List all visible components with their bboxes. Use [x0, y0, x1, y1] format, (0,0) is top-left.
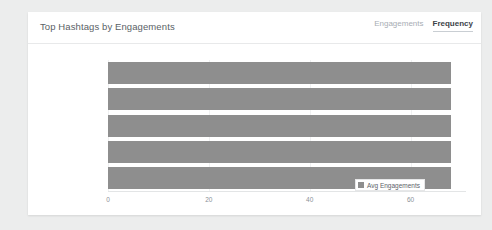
bar-row[interactable]: #eatgreen — [108, 62, 466, 84]
x-axis-tick-label: 0 — [106, 196, 110, 203]
tab-bar: Engagements Frequency — [374, 19, 473, 32]
screenshot-root: Top Hashtags by Engagements Engagements … — [0, 0, 492, 230]
bar-row[interactable]: #eathealthy — [108, 115, 466, 137]
x-axis-tick-label: 40 — [306, 196, 313, 203]
page-title: Top Hashtags by Engagements — [40, 21, 175, 32]
bar[interactable] — [108, 115, 451, 137]
plot-area: #eatgreen#eatclean#eathealthy#drinkkombu… — [108, 60, 466, 191]
tab-engagements[interactable]: Engagements — [374, 19, 423, 32]
tab-frequency[interactable]: Frequency — [433, 19, 473, 32]
bar-chart: #eatgreen#eatclean#eathealthy#drinkkombu… — [28, 44, 481, 215]
bar-row[interactable]: #drinkkombucha — [108, 141, 466, 163]
chart-card: Top Hashtags by Engagements Engagements … — [28, 12, 481, 215]
x-axis-tick-label: 60 — [407, 196, 414, 203]
x-axis-tick-label: 20 — [205, 196, 212, 203]
legend-label: Avg Engagements — [367, 182, 420, 189]
bar[interactable] — [108, 62, 451, 84]
square-marker-icon — [358, 182, 364, 188]
bar-row[interactable]: #eatclean — [108, 88, 466, 110]
bar[interactable] — [108, 141, 451, 163]
chart-legend[interactable]: Avg Engagements — [355, 179, 425, 191]
x-axis-line — [108, 191, 466, 192]
bar[interactable] — [108, 88, 451, 110]
card-header: Top Hashtags by Engagements Engagements … — [28, 12, 481, 44]
